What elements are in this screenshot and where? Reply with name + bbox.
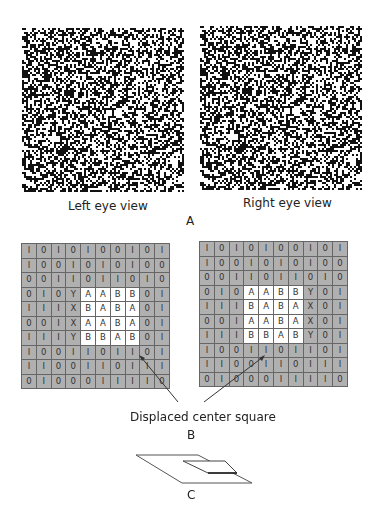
grid-cell: I bbox=[51, 316, 66, 331]
grid-cell: B bbox=[288, 285, 303, 300]
grid-cell: I bbox=[36, 374, 51, 389]
grid-cell: 0 bbox=[51, 345, 66, 360]
grid-cell: I bbox=[214, 358, 229, 373]
grid-cell: I bbox=[51, 244, 66, 259]
grid-cell: I bbox=[214, 300, 229, 315]
grid-cell: 0 bbox=[200, 372, 215, 387]
grid-row: IIIBBABY0I bbox=[200, 329, 348, 344]
grid-cell: I bbox=[259, 242, 274, 257]
right-eye-random-dot-pattern bbox=[200, 26, 362, 190]
displaced-square-caption: Displaced center square bbox=[130, 410, 276, 424]
grid-cell: I bbox=[259, 343, 274, 358]
grid-cell: 0 bbox=[259, 372, 274, 387]
grid-cell: I bbox=[229, 271, 244, 286]
grid-cell: I bbox=[51, 331, 66, 346]
grid-cell: 0 bbox=[66, 244, 81, 259]
grid-cell: 0 bbox=[36, 258, 51, 273]
grid-cell: Y bbox=[303, 329, 318, 344]
grid-cell: 0 bbox=[140, 258, 155, 273]
grid-cell: B bbox=[125, 331, 140, 346]
grid-cell: 0 bbox=[66, 374, 81, 389]
grid-cell: 0 bbox=[318, 343, 333, 358]
grid-cell: 0 bbox=[36, 316, 51, 331]
grid-cell: I bbox=[125, 244, 140, 259]
grid-cell: I bbox=[155, 345, 170, 360]
grid-cell: A bbox=[259, 314, 274, 329]
grid-cell: 0 bbox=[333, 271, 348, 286]
grid-cell: 0 bbox=[95, 244, 110, 259]
grid-cell: 0 bbox=[110, 258, 125, 273]
grid-cell: I bbox=[333, 242, 348, 257]
grid-row: 0I000IIII0 bbox=[22, 374, 170, 389]
grid-cell: 0 bbox=[214, 256, 229, 271]
grid-cell: I bbox=[66, 258, 81, 273]
grid-cell: I bbox=[200, 242, 215, 257]
background-plane bbox=[136, 455, 252, 483]
grid-cell: I bbox=[273, 372, 288, 387]
grid-cell: I bbox=[303, 242, 318, 257]
grid-cell: I bbox=[125, 345, 140, 360]
right-eye-grid: I0I0I00I0II00I0I0I0000II0II0I00I0AABBY0I… bbox=[199, 241, 348, 387]
grid-row: I00II0II0I bbox=[200, 343, 348, 358]
grid-cell: I bbox=[229, 300, 244, 315]
grid-cell: A bbox=[110, 331, 125, 346]
grid-cell: 0 bbox=[110, 360, 125, 375]
grid-cell: 0 bbox=[36, 244, 51, 259]
grid-cell: 0 bbox=[244, 372, 259, 387]
grid-cell: I bbox=[155, 302, 170, 317]
left-eye-caption: Left eye view bbox=[68, 199, 148, 213]
grid-row: 0I000IIII0 bbox=[200, 372, 348, 387]
grid-cell: A bbox=[125, 302, 140, 317]
grid-row: IIIYBBAB0I bbox=[22, 331, 170, 346]
grid-cell: B bbox=[110, 287, 125, 302]
grid-cell: I bbox=[333, 358, 348, 373]
grid-cell: I bbox=[200, 256, 215, 271]
grid-cell: Y bbox=[66, 287, 81, 302]
grid-cell: I bbox=[125, 374, 140, 389]
grid-cell: 0 bbox=[229, 343, 244, 358]
grid-cell: 0 bbox=[140, 316, 155, 331]
grid-cell: B bbox=[273, 314, 288, 329]
grid-cell: I bbox=[273, 358, 288, 373]
grid-cell: I bbox=[303, 372, 318, 387]
grid-cell: 0 bbox=[22, 273, 37, 288]
grid-cell: 0 bbox=[288, 242, 303, 257]
grid-cell: I bbox=[318, 358, 333, 373]
grid-cell: I bbox=[214, 285, 229, 300]
grid-cell: B bbox=[273, 285, 288, 300]
grid-cell: B bbox=[95, 331, 110, 346]
grid-cell: 0 bbox=[22, 287, 37, 302]
grid-cell: 0 bbox=[333, 372, 348, 387]
grid-cell: A bbox=[95, 302, 110, 317]
grid-cell: I bbox=[110, 374, 125, 389]
grid-cell: 0 bbox=[288, 256, 303, 271]
grid-cell: I bbox=[244, 256, 259, 271]
grid-cell: I bbox=[288, 372, 303, 387]
grid-cell: B bbox=[110, 316, 125, 331]
grid-row: 00IXAABA0I bbox=[22, 316, 170, 331]
panel-c-label: C bbox=[187, 488, 195, 502]
grid-cell: I bbox=[229, 329, 244, 344]
right-eye-caption: Right eye view bbox=[243, 196, 332, 210]
grid-cell: 0 bbox=[200, 314, 215, 329]
grid-cell: I bbox=[140, 273, 155, 288]
grid-cell: B bbox=[244, 329, 259, 344]
grid-cell: A bbox=[244, 285, 259, 300]
grid-row: I00II0II0I bbox=[22, 345, 170, 360]
grid-cell: B bbox=[259, 329, 274, 344]
grid-row: 0I0YAABB0I bbox=[22, 287, 170, 302]
grid-cell: I bbox=[95, 258, 110, 273]
grid-cell: 0 bbox=[200, 271, 215, 286]
grid-cell: A bbox=[259, 285, 274, 300]
grid-cell: 0 bbox=[81, 258, 96, 273]
grid-cell: 0 bbox=[51, 374, 66, 389]
grid-cell: I bbox=[22, 244, 37, 259]
grid-cell: I bbox=[229, 242, 244, 257]
grid-cell: I bbox=[125, 258, 140, 273]
grid-cell: A bbox=[273, 329, 288, 344]
grid-cell: 0 bbox=[318, 256, 333, 271]
grid-cell: 0 bbox=[66, 360, 81, 375]
grid-row: I00I0I0I00 bbox=[22, 258, 170, 273]
grid-cell: X bbox=[303, 314, 318, 329]
grid-cell: 0 bbox=[51, 287, 66, 302]
